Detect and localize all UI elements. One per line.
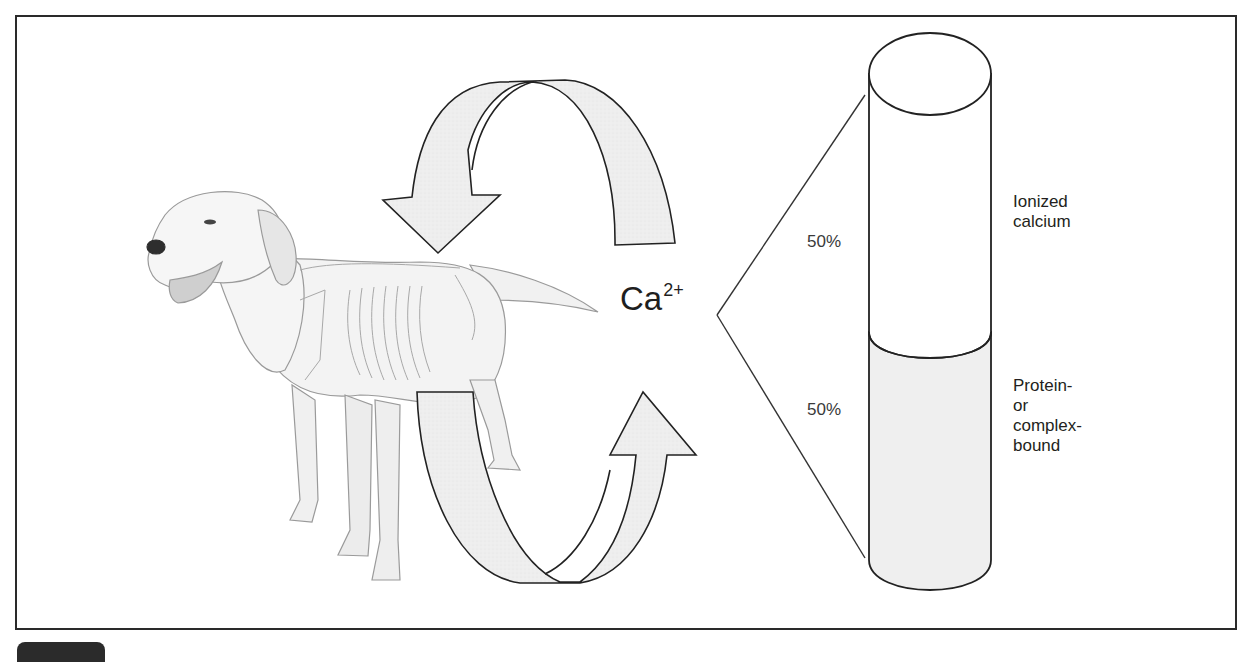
ionized-percent: 50% — [807, 232, 841, 252]
calcium-ion-label: Ca2+ — [620, 272, 684, 317]
bottom-cycle-arrow — [417, 392, 696, 583]
bound-calcium-segment — [869, 332, 991, 590]
dog-skeleton-illustration — [147, 192, 598, 580]
calcium-cylinder — [869, 33, 991, 590]
ionized-calcium-label: Ionized calcium — [1013, 192, 1071, 232]
distribution-bracket — [717, 95, 865, 558]
figure-number-tab — [17, 642, 105, 662]
ionized-calcium-segment — [869, 74, 991, 358]
bound-calcium-label: Protein- or complex- bound — [1013, 376, 1082, 456]
top-cycle-arrow — [383, 80, 675, 253]
bound-percent: 50% — [807, 400, 841, 420]
